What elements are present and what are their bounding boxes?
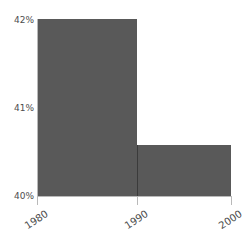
bar-1990-2000[interactable] — [137, 145, 231, 196]
x-axis-line — [37, 196, 232, 197]
plot-area — [38, 19, 231, 196]
x-tick-label-2000: 2000 — [196, 208, 244, 244]
bar-1980-1990[interactable] — [38, 19, 137, 196]
y-tick-label-41: 41% — [0, 103, 34, 113]
x-tick-mark-1980 — [37, 196, 38, 205]
y-tick-label-40: 40% — [0, 191, 34, 201]
bar-chart: 42% 41% 40% 1980 1990 2000 — [0, 0, 244, 249]
y-axis-tick-labels: 42% 41% 40% — [0, 0, 34, 249]
x-tick-mark-2000 — [231, 196, 232, 205]
x-tick-label-1990: 1990 — [102, 208, 150, 244]
x-tick-mark-1990 — [137, 196, 138, 205]
y-tick-label-42: 42% — [0, 15, 34, 25]
